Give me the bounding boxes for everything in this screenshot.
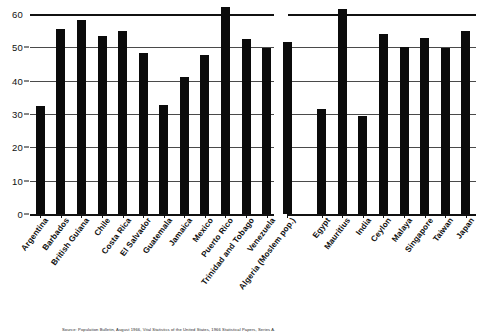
bar <box>98 36 107 214</box>
bar <box>118 31 127 214</box>
source-caption: Source: Population Bulletin, August 1966… <box>62 327 275 332</box>
y-tick-mark-10 <box>24 180 29 181</box>
y-tick-label-60: 60 <box>12 9 23 20</box>
bar <box>379 34 388 214</box>
y-tick-mark-20 <box>24 147 29 148</box>
y-tick-mark-0 <box>24 214 29 215</box>
x-tick-label: Japan <box>454 216 476 241</box>
bar <box>36 106 45 214</box>
bar <box>338 9 347 214</box>
gridline-0-left <box>30 214 274 216</box>
y-tick-label-50: 50 <box>12 42 23 53</box>
y-tick-label-0: 0 <box>18 209 23 220</box>
bar <box>221 7 230 214</box>
bar <box>139 53 148 214</box>
bar <box>262 48 271 214</box>
y-tick-label-40: 40 <box>12 75 23 86</box>
y-tick-label-20: 20 <box>12 142 23 153</box>
y-tick-label-30: 30 <box>12 109 23 120</box>
x-tick-label: Chile <box>93 216 113 238</box>
bar <box>242 39 251 214</box>
chart-figure: 0102030405060 ArgentinaBarbadosBritish G… <box>0 0 484 334</box>
bar <box>461 31 470 214</box>
x-tick-label: Taiwan <box>431 216 455 244</box>
bar <box>420 38 429 214</box>
bar-series <box>30 14 476 214</box>
bar <box>358 116 367 214</box>
x-tick-label: India <box>354 216 373 237</box>
plot-area: 0102030405060 ArgentinaBarbadosBritish G… <box>30 14 476 214</box>
bar <box>77 20 86 214</box>
bar <box>317 109 326 214</box>
y-tick-mark-50 <box>24 47 29 48</box>
bar <box>400 47 409 214</box>
bar <box>56 29 65 214</box>
y-tick-mark-40 <box>24 80 29 81</box>
bar <box>200 55 209 214</box>
bar <box>159 105 168 214</box>
y-tick-mark-30 <box>24 114 29 115</box>
bar <box>180 77 189 214</box>
bar <box>283 42 292 214</box>
y-tick-label-10: 10 <box>12 175 23 186</box>
bar <box>441 48 450 214</box>
x-tick-label: British Guiana <box>50 216 92 267</box>
